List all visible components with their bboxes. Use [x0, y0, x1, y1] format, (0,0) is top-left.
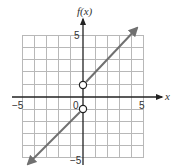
y-tick-pos5: 5	[74, 30, 80, 41]
y-tick-neg5: −5	[70, 155, 82, 166]
open-circle-upper	[79, 81, 86, 88]
graph: f(x) x −5 5 0 5 −5	[0, 0, 178, 167]
upper-branch-line	[86, 28, 137, 82]
x-tick-pos5: 5	[139, 100, 145, 111]
open-circle-lower	[79, 105, 86, 112]
x-tick-neg5: −5	[12, 100, 24, 111]
y-axis-label: f(x)	[77, 5, 93, 18]
x-axis-label: x	[164, 90, 170, 102]
origin-label: 0	[73, 100, 79, 111]
